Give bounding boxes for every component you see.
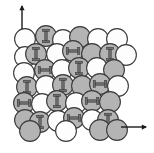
lattice-diagram bbox=[0, 0, 154, 153]
crystal-lattice-figure bbox=[0, 0, 154, 153]
unshaded-sphere bbox=[56, 121, 77, 142]
sphere-layer bbox=[14, 26, 137, 142]
shaded-sphere bbox=[47, 91, 68, 112]
vertical-axis-arrow bbox=[19, 5, 24, 29]
shaded-sphere bbox=[107, 120, 128, 141]
shaded-sphere bbox=[20, 121, 41, 142]
